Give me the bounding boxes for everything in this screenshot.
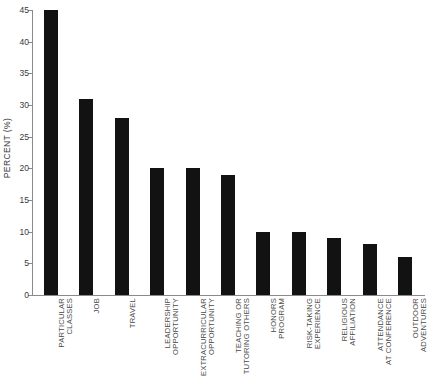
- bar: [150, 168, 164, 295]
- x-axis-label: LEADERSHIP OPPORTUNITY: [164, 298, 178, 378]
- x-axis-line: [32, 295, 425, 296]
- y-axis-tick-label: 10: [20, 227, 29, 236]
- x-axis-label: PARTICULAR CLASSES: [58, 298, 72, 378]
- x-axis-label: ATTENDANCE AT CONFERENCE: [377, 298, 391, 378]
- bar: [186, 168, 200, 295]
- y-axis-tick-label: 25: [20, 132, 29, 141]
- y-axis-tick-label: 35: [20, 69, 29, 78]
- bar: [115, 118, 129, 295]
- plot-area: 051015202530354045: [32, 10, 423, 295]
- x-axis-label: HONORS PROGRAM: [270, 298, 284, 378]
- y-axis-tick-label: 0: [24, 291, 29, 300]
- bar: [221, 175, 235, 295]
- y-axis-tick-label: 5: [24, 259, 29, 268]
- y-axis-tick-label: 20: [20, 164, 29, 173]
- y-axis-tick-label: 45: [20, 6, 29, 15]
- x-axis-label: OUTDOOR ADVENTURES: [412, 298, 426, 378]
- y-axis-title: PERCENT (%): [0, 0, 14, 296]
- bar: [292, 232, 306, 295]
- x-axis-label: TEACHING OR TUTORING OTHERS: [235, 298, 249, 378]
- x-axis-label: EXTRACURRICULAR OPPORTUNITY: [200, 298, 214, 378]
- y-axis-tick-label: 30: [20, 101, 29, 110]
- bar: [398, 257, 412, 295]
- y-axis-title-text: PERCENT (%): [2, 118, 12, 178]
- x-axis-label: RISK-TAKING EXPERIENCE: [306, 298, 320, 378]
- x-axis-label: JOB: [93, 298, 107, 378]
- bar: [363, 244, 377, 295]
- x-axis-label: TRAVEL: [129, 298, 143, 378]
- y-axis-tick-label: 15: [20, 196, 29, 205]
- y-axis-tick-label: 40: [20, 37, 29, 46]
- bar: [327, 238, 341, 295]
- bar: [79, 99, 93, 295]
- bar: [256, 232, 270, 295]
- bar: [44, 10, 58, 295]
- x-axis-labels: PARTICULAR CLASSESJOBTRAVELLEADERSHIP OP…: [33, 298, 423, 378]
- bar-series: [33, 10, 423, 295]
- x-axis-label: RELIGIOUS AFFILIATION: [341, 298, 355, 378]
